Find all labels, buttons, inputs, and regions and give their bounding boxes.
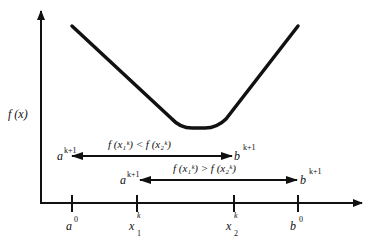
label-lower-b-k1: b k+1 [300,167,322,187]
label-lower-a-k1: a k+1 [120,170,140,187]
svg-text:k: k [234,211,238,220]
svg-text:b: b [290,219,296,233]
svg-text:2: 2 [234,229,238,238]
svg-text:k: k [137,211,141,220]
svg-text:k+1: k+1 [243,143,256,152]
svg-text:k+1: k+1 [309,167,322,176]
svg-text:0: 0 [299,215,303,224]
tick-label-b0: b 0 [290,215,303,233]
interval-reduction-diagram: f (x) a 0 x k 1 x k 2 b 0 f (x₁ᵏ) < f (x… [0,0,370,246]
svg-text:a: a [57,149,63,163]
condition-upper: f (x₁ᵏ) < f (x₂ᵏ) [108,138,171,151]
y-axis-label: f (x) [8,107,28,121]
svg-text:1: 1 [137,229,141,238]
label-upper-b-k1: b k+1 [234,143,256,163]
tick-label-a0: a 0 [66,215,78,233]
svg-text:k+1: k+1 [64,146,77,155]
function-curve [72,26,298,128]
svg-text:a: a [66,219,72,233]
svg-text:a: a [120,173,126,187]
tick-label-x1k: x k 1 [128,211,141,238]
svg-text:x: x [128,219,135,233]
svg-text:0: 0 [74,215,78,224]
svg-text:b: b [300,173,306,187]
svg-text:x: x [225,219,232,233]
svg-text:b: b [234,149,240,163]
condition-lower: f (x₁ᵏ) > f (x₂ᵏ) [173,162,236,175]
label-upper-a-k1: a k+1 [57,146,77,163]
svg-text:k+1: k+1 [127,170,140,179]
tick-label-x2k: x k 2 [225,211,238,238]
